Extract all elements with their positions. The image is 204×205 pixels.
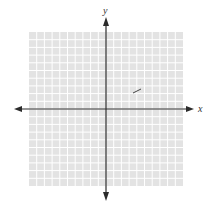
y-axis-up-arrow-icon [103, 17, 109, 26]
coordinate-plane: x y [0, 0, 204, 205]
x-axis-left-arrow-icon [14, 106, 22, 112]
x-axis-label: x [197, 103, 203, 114]
y-axis-label: y [102, 5, 108, 16]
x-axis-right-arrow-icon [186, 106, 194, 112]
y-axis-down-arrow-icon [103, 192, 109, 201]
